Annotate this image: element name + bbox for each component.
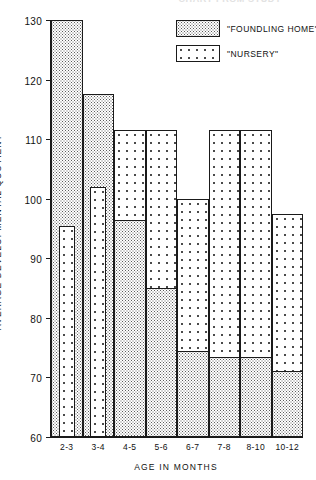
y-axis-title: AVERAGE DEVELOPMENTAL QUOTIENT — [0, 134, 3, 330]
bar-foundling-home-overlay — [209, 357, 241, 437]
x-axis-tick-label: 2-3 — [60, 442, 74, 452]
y-axis-tick-label: 130 — [24, 16, 42, 27]
bar-foundling-home-overlay — [146, 288, 178, 437]
bar-foundling-home-overlay — [114, 220, 146, 437]
bar-group — [114, 20, 146, 437]
bar-group — [83, 20, 115, 437]
x-axis-tick-label: 10-12 — [275, 442, 299, 452]
chart-title: CHART FROM STUDY — [150, 0, 310, 2]
bar-nursery — [90, 187, 106, 437]
y-axis-tick-label: 120 — [24, 75, 42, 86]
y-axis-tick-label: 70 — [30, 373, 42, 384]
y-axis-tick-label: 110 — [25, 135, 42, 146]
y-axis-tick-label: 100 — [24, 194, 42, 205]
x-axis-tick-label: 4-5 — [123, 442, 137, 452]
bar-foundling-home-overlay — [177, 351, 209, 437]
x-axis-tick-label: 5-6 — [155, 442, 169, 452]
x-axis-tick-label: 7-8 — [218, 442, 232, 452]
bar-nursery — [59, 226, 75, 437]
bar-foundling-home-overlay — [240, 357, 272, 437]
bar-group — [146, 20, 178, 437]
bar-foundling-home-overlay — [272, 371, 304, 437]
x-axis-title: AGE IN MONTHS — [50, 462, 302, 472]
y-axis-tick-label: 60 — [30, 433, 42, 444]
y-axis-tick-label: 80 — [30, 313, 42, 324]
y-axis-tick: 60 — [46, 437, 51, 438]
x-axis-tick-label: 8-10 — [246, 442, 265, 452]
plot-area: 60708090100110120130 2-33-44-55-66-77-88… — [50, 20, 303, 438]
x-axis-tick-label: 3-4 — [92, 442, 106, 452]
bar-series-container — [51, 20, 303, 437]
bar-group — [209, 20, 241, 437]
bar-group — [272, 20, 304, 437]
y-axis-tick-label: 90 — [30, 254, 42, 265]
x-axis-tick-label: 6-7 — [186, 442, 200, 452]
bar-group — [51, 20, 83, 437]
bar-group — [177, 20, 209, 437]
bar-group — [240, 20, 272, 437]
